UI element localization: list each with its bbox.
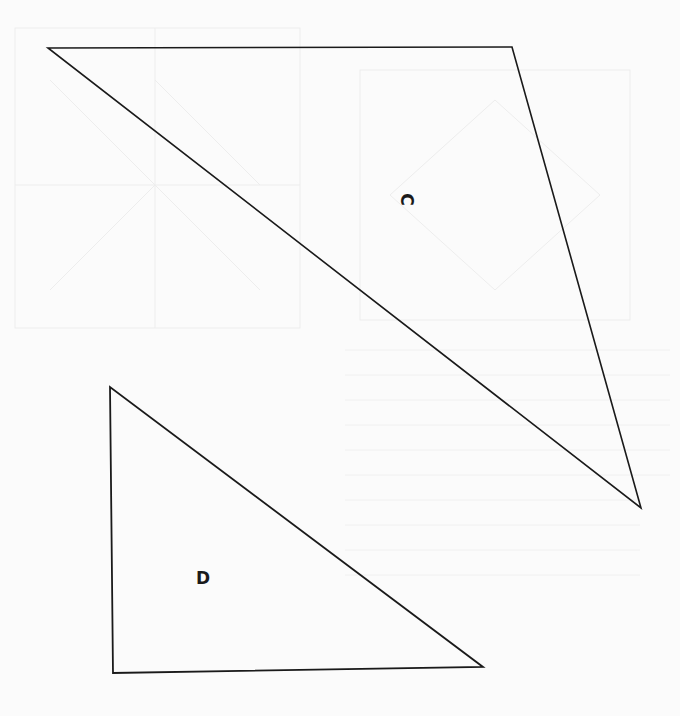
- diagram-canvas: [0, 0, 680, 716]
- triangle-c: [48, 47, 641, 508]
- triangle-c-label: C: [398, 193, 415, 205]
- triangle-d-label: D: [196, 570, 210, 587]
- triangle-d: [110, 387, 483, 673]
